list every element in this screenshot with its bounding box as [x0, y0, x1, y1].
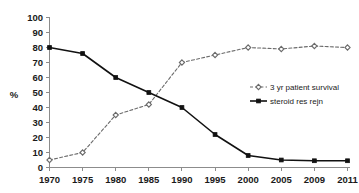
- y-axis-title: %: [10, 89, 19, 100]
- data-point-marker: [180, 106, 184, 110]
- x-tick-label: 1990: [171, 174, 192, 185]
- y-tick-label: 60: [32, 72, 43, 83]
- x-tick-label: 2011: [337, 174, 358, 185]
- chart-canvas: 1009080706050403020100%19701975198019851…: [0, 0, 359, 193]
- data-point-marker: [212, 52, 217, 57]
- data-point-marker: [81, 52, 85, 56]
- y-tick-label: 20: [32, 132, 43, 143]
- x-tick-label: 1970: [39, 174, 60, 185]
- data-point-marker: [147, 91, 151, 95]
- x-tick-label: 1995: [204, 174, 226, 185]
- y-tick-label: 90: [32, 27, 43, 38]
- y-tick-label: 30: [32, 117, 43, 128]
- data-point-marker: [246, 45, 251, 50]
- x-tick-label: 2000: [238, 174, 259, 185]
- x-tick-label: 2005: [271, 174, 293, 185]
- data-point-marker: [312, 159, 316, 163]
- y-tick-label: 0: [38, 162, 43, 173]
- data-point-marker: [279, 158, 283, 162]
- data-point-marker: [257, 99, 261, 103]
- y-tick-label: 80: [32, 42, 43, 53]
- x-tick-label: 1980: [105, 174, 126, 185]
- y-tick-label: 10: [32, 147, 43, 158]
- legend: 3 yr patient survivalsteroid res rejn: [250, 83, 339, 106]
- y-tick-label: 100: [27, 12, 43, 23]
- data-point-marker: [48, 46, 52, 50]
- x-tick-label: 2009: [304, 174, 325, 185]
- data-point-marker: [256, 84, 261, 89]
- data-point-marker: [346, 159, 350, 163]
- line-chart: 1009080706050403020100%19701975198019851…: [0, 0, 359, 193]
- data-point-marker: [213, 133, 217, 137]
- x-tick-label: 1975: [72, 174, 94, 185]
- data-point-marker: [312, 43, 317, 48]
- data-point-marker: [345, 45, 350, 50]
- y-tick-label: 50: [32, 87, 43, 98]
- y-tick-label: 40: [32, 102, 43, 113]
- data-point-marker: [246, 154, 250, 158]
- legend-label-rejection: steroid res rejn: [270, 97, 323, 106]
- data-point-marker: [47, 157, 52, 162]
- x-tick-label: 1985: [138, 174, 160, 185]
- y-tick-label: 70: [32, 57, 43, 68]
- data-point-marker: [114, 76, 118, 80]
- data-point-marker: [279, 46, 284, 51]
- legend-label-survival: 3 yr patient survival: [270, 83, 339, 92]
